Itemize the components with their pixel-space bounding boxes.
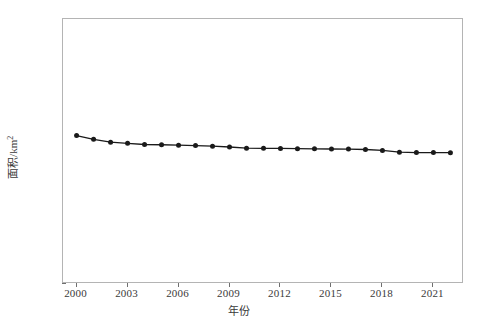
data-point	[397, 150, 402, 155]
y-axis-title-text: 面积/km	[7, 140, 19, 179]
data-point	[312, 146, 317, 151]
data-point	[108, 140, 113, 145]
data-point	[74, 133, 79, 138]
data-point	[329, 146, 334, 151]
data-point	[448, 150, 453, 155]
y-axis-title-exponent: 2	[6, 136, 15, 140]
data-point	[278, 146, 283, 151]
data-point	[431, 150, 436, 155]
data-series-area	[63, 19, 464, 284]
x-axis-title: 年份	[0, 305, 478, 317]
data-point	[142, 142, 147, 147]
data-point	[295, 146, 300, 151]
data-point	[227, 145, 232, 150]
data-point	[125, 141, 130, 146]
x-tick-label: 2021	[402, 288, 462, 299]
data-point	[380, 148, 385, 153]
y-axis-title: 面积/km2	[5, 114, 20, 200]
data-point	[176, 143, 181, 148]
data-point	[244, 146, 249, 151]
data-point	[346, 147, 351, 152]
data-point	[193, 143, 198, 148]
data-point	[363, 147, 368, 152]
data-point	[91, 137, 96, 142]
area-by-year-line-chart: 面积/km2 35004000450050005500 200020032006…	[0, 0, 478, 327]
data-point	[210, 144, 215, 149]
data-point	[414, 150, 419, 155]
data-point	[261, 146, 266, 151]
plot-area	[62, 18, 463, 283]
data-point	[159, 142, 164, 147]
